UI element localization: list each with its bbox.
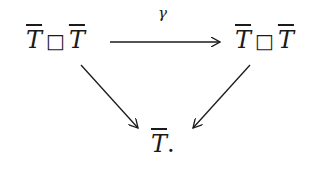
node-top-left: T□T <box>26 26 85 54</box>
symbol-t-bar: T <box>26 26 42 54</box>
arrow-left-diagonal <box>81 65 138 128</box>
symbol-t-bar: T <box>235 26 251 54</box>
node-bottom: T. <box>151 130 175 158</box>
box-product-symbol: □ <box>46 29 65 53</box>
gamma-label: γ <box>158 4 167 22</box>
symbol-t-bar: T <box>151 130 167 158</box>
arrow-right-diagonal <box>193 65 250 128</box>
node-top-right: T□T <box>235 26 294 54</box>
symbol-t-bar: T <box>69 26 85 54</box>
period: . <box>167 130 175 158</box>
box-product-symbol: □ <box>255 29 274 53</box>
symbol-t-bar: T <box>278 26 294 54</box>
